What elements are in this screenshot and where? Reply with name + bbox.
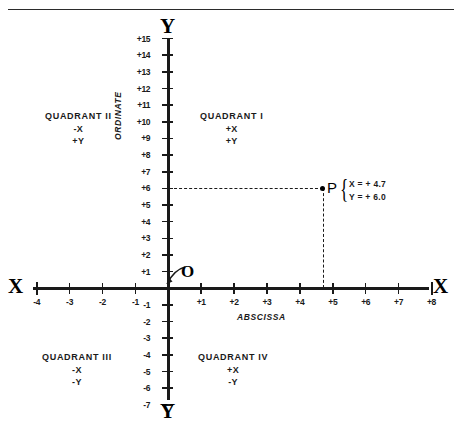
- cartesian-coordinate-diagram: +15+14+13+12+11+10+9+8+7+6+5+4+3+2+1-1-2…: [0, 0, 462, 436]
- x-tick: [398, 283, 400, 294]
- x-tick-label: +5: [318, 297, 348, 307]
- x-tick: [365, 283, 367, 294]
- x-axis-right-label: X: [433, 274, 448, 299]
- y-tick-label: +4: [110, 217, 150, 227]
- y-tick-label: +5: [110, 200, 150, 210]
- y-tick-label: -4: [110, 350, 150, 360]
- quadrant-iv-y-sign: -Y: [198, 376, 268, 389]
- ordinate-label: ORDINATE: [113, 91, 123, 140]
- quadrant-i-label: QUADRANT I +X +Y: [200, 110, 264, 148]
- quadrant-iii-name: QUADRANT III: [42, 351, 112, 364]
- point-p-x-value: X = + 4.7: [349, 178, 386, 191]
- x-tick: [36, 282, 38, 295]
- y-tick: [162, 154, 173, 156]
- x-tick: [233, 283, 235, 294]
- quadrant-ii-label: QUADRANT II -X +Y: [45, 110, 112, 148]
- quadrant-iii-y-sign: -Y: [42, 376, 112, 389]
- y-tick-label: -6: [110, 383, 150, 393]
- y-tick-label: +7: [110, 167, 150, 177]
- quadrant-iv-name: QUADRANT IV: [198, 351, 268, 364]
- y-tick: [162, 204, 173, 206]
- x-tick-label: +2: [219, 297, 249, 307]
- x-tick: [69, 283, 71, 294]
- point-p-marker: [320, 186, 325, 191]
- x-tick: [332, 283, 334, 294]
- y-tick: [162, 354, 173, 356]
- x-tick-label: +4: [285, 297, 315, 307]
- x-tick: [102, 283, 104, 294]
- point-p-label: P: [327, 179, 337, 196]
- y-tick-label: -5: [110, 367, 150, 377]
- y-axis-bottom-label: Y: [160, 399, 175, 424]
- point-p-horizontal-projection: [169, 188, 323, 189]
- quadrant-ii-x-sign: -X: [45, 123, 112, 136]
- x-tick-label: +7: [384, 297, 414, 307]
- quadrant-i-y-sign: +Y: [200, 135, 264, 148]
- y-tick: [162, 104, 173, 106]
- abscissa-label: ABSCISSA: [237, 312, 286, 322]
- y-tick: [162, 371, 173, 373]
- y-tick: [162, 121, 173, 123]
- x-tick: [299, 283, 301, 294]
- x-tick-label: -1: [120, 297, 150, 307]
- point-p-vertical-projection: [323, 188, 324, 288]
- quadrant-iii-label: QUADRANT III -X -Y: [42, 351, 112, 389]
- y-tick: [162, 254, 173, 256]
- x-tick: [135, 283, 137, 294]
- y-tick: [162, 171, 173, 173]
- point-p-coordinates: X = + 4.7 Y = + 6.0: [349, 178, 386, 204]
- x-tick-label: +6: [351, 297, 381, 307]
- x-tick-label: -3: [55, 297, 85, 307]
- y-tick-label: +3: [110, 233, 150, 243]
- y-tick: [162, 304, 173, 306]
- y-tick-label: +1: [110, 267, 150, 277]
- y-tick: [162, 221, 173, 223]
- quadrant-ii-name: QUADRANT II: [45, 110, 112, 123]
- y-axis-top-label: Y: [160, 14, 175, 39]
- y-tick-label: -7: [110, 400, 150, 410]
- x-tick-label: -4: [22, 297, 52, 307]
- quadrant-i-name: QUADRANT I: [200, 110, 264, 123]
- quadrant-iv-x-sign: +X: [198, 364, 268, 377]
- x-axis-line: [33, 287, 429, 290]
- quadrant-iv-label: QUADRANT IV +X -Y: [198, 351, 268, 389]
- y-tick-label: -3: [110, 333, 150, 343]
- x-tick: [200, 283, 202, 294]
- origin-label: O: [181, 262, 194, 282]
- x-tick: [266, 283, 268, 294]
- point-p-y-value: Y = + 6.0: [349, 191, 386, 204]
- y-tick: [162, 337, 173, 339]
- y-tick: [162, 387, 173, 389]
- quadrant-ii-y-sign: +Y: [45, 135, 112, 148]
- y-tick: [162, 138, 173, 140]
- y-tick: [162, 71, 173, 73]
- x-tick-label: +1: [186, 297, 216, 307]
- y-tick-label: +6: [110, 183, 150, 193]
- y-tick-label: -2: [110, 317, 150, 327]
- y-tick: [162, 54, 173, 56]
- quadrant-iii-x-sign: -X: [42, 364, 112, 377]
- y-tick-label: +2: [110, 250, 150, 260]
- y-tick: [162, 238, 173, 240]
- y-axis-line: [167, 38, 170, 400]
- quadrant-i-x-sign: +X: [200, 123, 264, 136]
- point-p-brace: {: [340, 173, 348, 205]
- y-tick: [162, 321, 173, 323]
- x-tick-label: -2: [88, 297, 118, 307]
- y-tick-label: +14: [110, 50, 150, 60]
- x-axis-left-label: X: [8, 274, 23, 299]
- y-tick-label: +15: [110, 34, 150, 44]
- x-tick-label: +3: [252, 297, 282, 307]
- y-tick-label: +8: [110, 150, 150, 160]
- y-tick-label: +13: [110, 67, 150, 77]
- y-tick: [162, 88, 173, 90]
